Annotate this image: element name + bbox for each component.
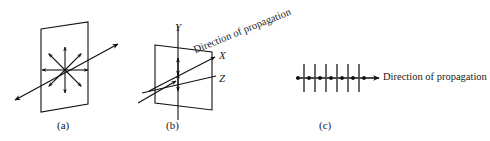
particle-dot	[340, 76, 344, 80]
panel-b-incoming-ray	[138, 81, 176, 103]
panel-c-caption: (c)	[319, 119, 331, 131]
panel-b-z-axis	[142, 76, 216, 93]
panel-b-x-axis-label: X	[219, 49, 226, 61]
vibration-vector-45	[65, 54, 81, 70]
panel-c-group	[296, 64, 379, 92]
panel-b-plane	[155, 45, 212, 110]
vibration-vector-225	[49, 70, 65, 86]
particle-dot	[362, 76, 366, 80]
vibration-vector-315	[65, 70, 81, 86]
particle-dot	[351, 76, 355, 80]
particle-dot	[307, 76, 311, 80]
panel-b-y-axis-label: Y	[175, 21, 181, 33]
vibration-vector-135	[49, 54, 65, 70]
panel-a-caption: (a)	[57, 119, 69, 131]
panel-b-x-axis	[149, 57, 215, 91]
panel-b-z-axis-label: Z	[219, 72, 225, 84]
particle-dot	[318, 76, 322, 80]
panel-c-propagation-label: Direction of propagation	[383, 71, 487, 82]
panel-a-vibration-vectors	[42, 47, 88, 93]
polarization-figure: Y Z X Direction of propagation Direction…	[0, 0, 490, 141]
particle-dot	[329, 76, 333, 80]
panel-b-caption: (b)	[166, 119, 179, 131]
particle-dot	[296, 76, 300, 80]
panel-a-group	[15, 22, 118, 112]
